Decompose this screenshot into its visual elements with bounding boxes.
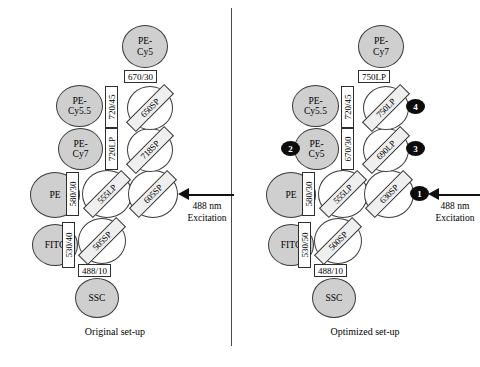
excitation-arrow <box>428 188 480 200</box>
detector-ssc[interactable]: SSC <box>312 278 356 318</box>
badge-3[interactable]: 3 <box>406 141 425 156</box>
filter-pe-580-30-label: 580/30 <box>68 181 78 206</box>
detector-pe-cy7[interactable]: PE- Cy7 <box>358 25 404 68</box>
filter-ssc-488-10[interactable]: 488/10 <box>314 264 347 277</box>
mirror-718sp[interactable]: 718SP <box>127 128 173 172</box>
detector-pe-cy55-label-1: PE- <box>308 96 322 107</box>
panel-original-setup: SSC FITC PE PE- Cy7 PE- Cy5.5 PE- Cy5 50… <box>0 0 240 367</box>
filter-pe-cy55-720-45[interactable]: 720/45 <box>105 86 118 128</box>
excitation-line-2: Excitation <box>178 212 236 224</box>
detector-pe-cy5[interactable]: PE- Cy5 <box>294 128 339 170</box>
detector-pe-cy5[interactable]: PE- Cy5 <box>122 25 168 68</box>
detector-pe-label: PE <box>285 190 296 201</box>
filter-pe-cy55-720-45-label: 720/45 <box>107 94 117 119</box>
excitation-line-1: 488 nm <box>426 200 480 212</box>
filter-pe-cy7-720lp-label: 720LP <box>107 137 117 161</box>
filter-pe-cy5-670-30-label: 670/30 <box>128 72 153 82</box>
excitation-caption: 488 nm Excitation <box>178 200 236 224</box>
mirror-750lp-label: 750LP <box>362 84 410 132</box>
excitation-line-2: Excitation <box>426 212 480 224</box>
mirror-605sp-label: 605SP <box>129 170 177 218</box>
mirror-500sp[interactable]: 500SP <box>314 218 362 264</box>
excitation-arrow <box>178 188 234 200</box>
filter-ssc-488-10-label: 488/10 <box>82 266 107 276</box>
excitation-caption: 488 nm Excitation <box>426 200 480 224</box>
filter-fitc-530-50[interactable]: 530/50 <box>298 222 311 268</box>
filter-pe-cy7-750lp[interactable]: 750LP <box>358 70 390 83</box>
filter-fitc-530-40[interactable]: 530/40 <box>62 222 75 268</box>
mirror-555lp-label: 555LP <box>83 170 131 218</box>
filter-pe-cy7-750lp-label: 750LP <box>362 72 386 82</box>
detector-pe-cy7[interactable]: PE- Cy7 <box>58 128 103 170</box>
mirror-605sp[interactable]: 605SP <box>128 170 178 218</box>
mirror-630sp-label: 630SP <box>365 170 413 218</box>
detector-pe-cy5-label-2: Cy5 <box>137 47 153 58</box>
excitation-arrow-line <box>188 194 234 196</box>
filter-ssc-488-10-label: 488/10 <box>318 266 343 276</box>
detector-pe-cy5-label-1: PE- <box>138 36 152 47</box>
detector-pe-cy55[interactable]: PE- Cy5.5 <box>292 85 339 127</box>
detector-pe-cy55-label-2: Cy5.5 <box>68 106 91 117</box>
detector-ssc-label: SSC <box>89 293 106 304</box>
detector-pe-cy7-label-2: Cy7 <box>73 149 89 160</box>
detector-pe-cy55-label-1: PE- <box>72 96 86 107</box>
detector-pe-cy55-label-2: Cy5.5 <box>304 106 327 117</box>
filter-pe-cy5-670-30-label: 670/30 <box>343 136 353 161</box>
badge-2[interactable]: 2 <box>281 141 300 156</box>
filter-pe-cy55-720-45[interactable]: 720/45 <box>341 86 354 128</box>
excitation-arrow-line <box>438 194 480 196</box>
filter-fitc-530-50-label: 530/50 <box>300 232 310 257</box>
mirror-750lp[interactable]: 750LP <box>363 86 409 130</box>
filter-pe-580-30[interactable]: 580/30 <box>66 172 79 216</box>
detector-pe-cy5-label-1: PE- <box>309 139 323 150</box>
mirror-505sp-label: 505SP <box>78 217 126 265</box>
detector-pe-label: PE <box>49 190 60 201</box>
badge-1[interactable]: 1 <box>410 186 429 201</box>
mirror-505sp[interactable]: 505SP <box>78 218 126 264</box>
mirror-555lp-label: 555LP <box>319 170 367 218</box>
detector-pe-cy55[interactable]: PE- Cy5.5 <box>56 85 103 127</box>
panel-optimized-setup: SSC FITC PE PE- Cy5 PE- Cy5.5 PE- Cy7 50… <box>240 0 480 367</box>
mirror-718sp-label: 718SP <box>126 126 174 174</box>
flow-cytometer-optical-configuration-figure: SSC FITC PE PE- Cy7 PE- Cy5.5 PE- Cy5 50… <box>0 0 480 367</box>
mirror-500sp-label: 500SP <box>314 217 362 265</box>
detector-ssc-label: SSC <box>326 293 343 304</box>
mirror-555lp[interactable]: 555LP <box>82 170 132 218</box>
mirror-650sp-label: 650SP <box>126 84 174 132</box>
mirror-690lp[interactable]: 690LP <box>363 128 409 172</box>
mirror-630sp[interactable]: 630SP <box>364 170 414 218</box>
filter-fitc-530-40-label: 530/40 <box>64 232 74 257</box>
panel-optimized-caption: Optimized set-up <box>250 326 480 337</box>
detector-pe-cy7-label-2: Cy7 <box>373 47 389 58</box>
excitation-line-1: 488 nm <box>178 200 236 212</box>
filter-pe-cy55-720-45-label: 720/45 <box>343 94 353 119</box>
detector-pe-cy5-label-2: Cy5 <box>309 149 325 160</box>
mirror-555lp[interactable]: 555LP <box>318 170 368 218</box>
filter-pe-cy5-670-30[interactable]: 670/30 <box>341 128 354 170</box>
detector-pe-cy7-label-1: PE- <box>73 139 87 150</box>
mirror-650sp[interactable]: 650SP <box>127 86 173 130</box>
badge-4[interactable]: 4 <box>406 99 425 114</box>
filter-pe-cy7-720lp[interactable]: 720LP <box>105 128 118 170</box>
mirror-690lp-label: 690LP <box>362 126 410 174</box>
panel-original-caption: Original set-up <box>0 326 230 337</box>
filter-pe-580-30[interactable]: 580/30 <box>302 172 315 216</box>
filter-pe-580-30-label: 580/30 <box>304 181 314 206</box>
filter-ssc-488-10[interactable]: 488/10 <box>78 264 111 277</box>
detector-ssc[interactable]: SSC <box>75 278 119 318</box>
detector-pe-cy7-label-1: PE- <box>374 36 388 47</box>
filter-pe-cy5-670-30[interactable]: 670/30 <box>124 70 157 83</box>
